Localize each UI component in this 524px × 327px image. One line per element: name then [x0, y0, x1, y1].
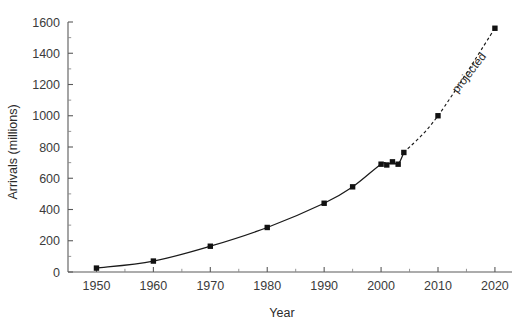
data-point-marker [378, 161, 383, 166]
x-tick-label: 1990 [310, 279, 338, 293]
series-group [94, 26, 498, 271]
x-tick-label: 1980 [253, 279, 281, 293]
x-axis-group: 19501960197019801990200020102020 [68, 267, 512, 293]
chart-annotations: projected [450, 50, 489, 95]
series-projected-line [404, 28, 495, 152]
data-point-marker [94, 265, 99, 270]
y-tick-label: 1000 [32, 109, 60, 123]
series-data-markers [94, 26, 498, 271]
x-tick-label: 1960 [139, 279, 167, 293]
tourism-arrivals-line-chart: 02004006008001000120014001600 1950196019… [0, 0, 524, 327]
projected-annotation-label: projected [450, 50, 489, 95]
chart-container: 02004006008001000120014001600 1950196019… [0, 0, 524, 327]
x-tick-label: 1970 [196, 279, 224, 293]
data-point-marker [492, 26, 497, 31]
y-tick-label: 200 [39, 234, 60, 248]
data-point-marker [384, 162, 389, 167]
y-axis-group: 02004006008001000120014001600 [32, 16, 73, 280]
y-tick-label: 0 [53, 266, 60, 280]
data-point-marker [390, 159, 395, 164]
data-point-marker [265, 225, 270, 230]
x-tick-label: 2010 [424, 279, 452, 293]
data-point-marker [151, 258, 156, 263]
y-axis-tick-labels: 02004006008001000120014001600 [32, 16, 60, 280]
data-point-marker [208, 244, 213, 249]
data-point-marker [401, 150, 406, 155]
y-tick-label: 600 [39, 172, 60, 186]
x-tick-label: 2020 [481, 279, 509, 293]
data-point-marker [321, 201, 326, 206]
y-axis-major-ticks [68, 22, 73, 272]
y-tick-label: 800 [39, 141, 60, 155]
x-axis-tick-labels: 19501960197019801990200020102020 [83, 279, 509, 293]
y-tick-label: 1400 [32, 47, 60, 61]
y-tick-label: 1200 [32, 78, 60, 92]
x-axis-title: Year [269, 306, 294, 320]
series-actual-line [96, 152, 403, 268]
x-tick-label: 2000 [367, 279, 395, 293]
data-point-marker [435, 113, 440, 118]
data-point-marker [395, 161, 400, 166]
x-tick-label: 1950 [83, 279, 111, 293]
y-tick-label: 400 [39, 203, 60, 217]
data-point-marker [350, 184, 355, 189]
y-axis-title: Arrivals (millions) [6, 104, 20, 199]
y-tick-label: 1600 [32, 16, 60, 30]
